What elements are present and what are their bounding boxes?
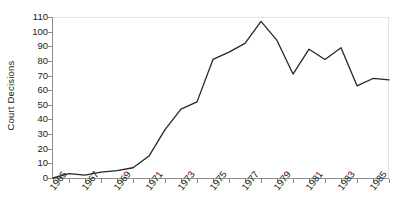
series-line-court-decisions <box>53 21 389 178</box>
line-chart: Court Decisions 110100908070605040302010… <box>0 0 404 223</box>
data-series-layer <box>0 0 404 223</box>
